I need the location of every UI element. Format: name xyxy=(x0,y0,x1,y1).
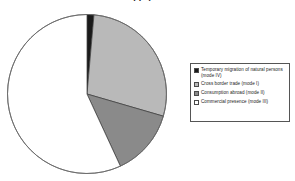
pie-plot-area xyxy=(7,14,167,174)
chart-title: Share of modes of supply in world servic… xyxy=(0,0,295,1)
chart-legend: Temporary migration of natural persons (… xyxy=(190,63,290,122)
legend-item-mode-iv[interactable]: Temporary migration of natural persons (… xyxy=(194,67,287,78)
legend-swatch-mode-iv xyxy=(194,68,199,73)
legend-label-mode-i: Cross border trade (mode I) xyxy=(201,81,259,87)
legend-item-mode-iii[interactable]: Commercial presence (mode III) xyxy=(194,99,287,105)
pie-slice-group xyxy=(8,15,167,174)
legend-swatch-mode-i xyxy=(194,82,199,87)
pie-chart-figure: Share of modes of supply in world servic… xyxy=(0,0,295,181)
legend-label-mode-ii: Consumption abroad (mode II) xyxy=(201,90,265,96)
pie-svg xyxy=(7,14,167,174)
legend-label-mode-iii: Commercial presence (mode III) xyxy=(201,99,268,105)
legend-item-mode-i[interactable]: Cross border trade (mode I) xyxy=(194,81,287,87)
legend-swatch-mode-ii xyxy=(194,91,199,96)
legend-swatch-mode-iii xyxy=(194,100,199,105)
legend-item-mode-ii[interactable]: Consumption abroad (mode II) xyxy=(194,90,287,96)
legend-label-mode-iv: Temporary migration of natural persons (… xyxy=(201,67,287,78)
